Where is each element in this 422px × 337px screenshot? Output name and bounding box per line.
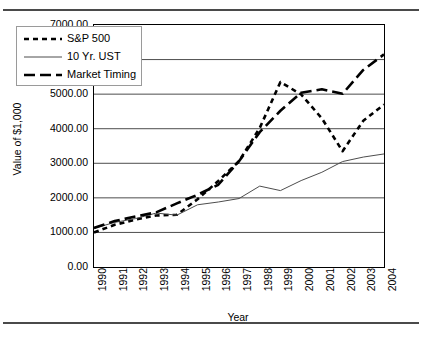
legend-label: 10 Yr. UST [67, 50, 121, 62]
x-axis-tick-label: 1997 [242, 268, 252, 308]
legend-entry: Market Timing [17, 66, 141, 83]
x-axis-tick-label: 2002 [346, 268, 356, 308]
x-axis-tick-label: 1991 [118, 268, 128, 308]
legend-entry: 10 Yr. UST [17, 48, 141, 65]
x-axis-tick-label: 1993 [159, 268, 169, 308]
x-axis-tick-label: 2003 [366, 268, 376, 308]
x-axis-tick-label: 1995 [201, 268, 211, 308]
x-axis-title: Year [93, 311, 383, 323]
legend-entry: S&P 500 [17, 30, 141, 47]
legend-label: S&P 500 [67, 32, 110, 44]
y-axis-tick-label: 1000.00 [22, 226, 88, 236]
line-chart-figure: Value of $1,000 0.001000.002000.003000.0… [0, 14, 422, 314]
x-axis-tick-label: 2004 [387, 268, 397, 308]
x-axis-tick-label: 1990 [97, 268, 107, 308]
y-axis-tick-label: 2000.00 [22, 192, 88, 202]
y-axis-tick-label: 5000.00 [22, 88, 88, 98]
x-axis-tick-labels: 1990199119921993199419951996199719981999… [93, 270, 385, 310]
legend-swatch-icon [23, 66, 63, 83]
x-axis-tick-label: 1999 [283, 268, 293, 308]
x-axis-tick-label: 1996 [221, 268, 231, 308]
legend-swatch-icon [23, 30, 63, 47]
chart-legend: S&P 50010 Yr. USTMarket Timing [16, 26, 142, 86]
x-axis-tick-label: 1998 [263, 268, 273, 308]
y-axis-tick-label: 4000.00 [22, 123, 88, 133]
series-line [94, 82, 384, 232]
x-axis-tick-label: 1992 [138, 268, 148, 308]
top-horizontal-rule [3, 9, 419, 11]
x-axis-tick-label: 2000 [304, 268, 314, 308]
y-axis-tick-label: 3000.00 [22, 157, 88, 167]
y-axis-tick-label: 0.00 [22, 261, 88, 271]
legend-swatch-icon [23, 48, 63, 65]
x-axis-tick-label: 2001 [325, 268, 335, 308]
series-line [94, 154, 384, 228]
legend-label: Market Timing [67, 68, 136, 80]
x-axis-tick-label: 1994 [180, 268, 190, 308]
